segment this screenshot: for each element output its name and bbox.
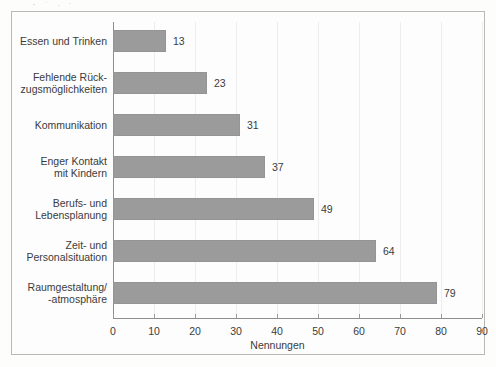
x-axis-tick — [195, 314, 196, 318]
gridline — [441, 22, 442, 318]
x-axis-tick — [318, 314, 319, 318]
bar — [113, 240, 376, 262]
x-axis-tick — [277, 314, 278, 318]
category-label: Enger Kontakt mit Kindern — [18, 155, 107, 180]
x-axis-tick-label: 90 — [462, 325, 496, 337]
x-axis-tick-label: 0 — [93, 325, 133, 337]
gridline — [359, 22, 360, 318]
x-axis-line — [113, 318, 482, 319]
x-axis-tick-label: 20 — [175, 325, 215, 337]
bar-value-label: 23 — [214, 77, 226, 89]
x-axis-tick-label: 50 — [298, 325, 338, 337]
bar-value-label: 31 — [247, 119, 259, 131]
x-axis-tick — [441, 314, 442, 318]
bar-value-label: 79 — [444, 287, 456, 299]
x-axis-tick-label: 30 — [216, 325, 256, 337]
x-axis-tick-label: 10 — [134, 325, 174, 337]
gridline — [482, 22, 483, 318]
bar-chart: 0102030405060708090NennungenEssen und Tr… — [0, 0, 496, 367]
bar — [113, 30, 166, 52]
x-axis-tick — [236, 314, 237, 318]
gridline — [400, 22, 401, 318]
bar — [113, 156, 265, 178]
bar — [113, 282, 437, 304]
category-label: Essen und Trinken — [18, 35, 107, 48]
bar — [113, 114, 240, 136]
gridline — [318, 22, 319, 318]
bar-value-label: 13 — [173, 35, 185, 47]
bar-value-label: 37 — [272, 161, 284, 173]
x-axis-tick-label: 70 — [380, 325, 420, 337]
bar-value-label: 64 — [383, 245, 395, 257]
x-axis-tick — [154, 314, 155, 318]
bar — [113, 72, 207, 94]
x-axis-tick — [482, 314, 483, 318]
category-label: Raumgestaltung/ -atmosphäre — [18, 281, 107, 306]
x-axis-tick-label: 80 — [421, 325, 461, 337]
x-axis-tick — [113, 314, 114, 318]
x-axis-tick-label: 40 — [257, 325, 297, 337]
x-axis-tick-label: 60 — [339, 325, 379, 337]
x-axis-title: Nennungen — [93, 339, 462, 351]
category-label: Berufs- und Lebensplanung — [18, 197, 107, 222]
category-label: Fehlende Rück- zugsmöglichkeiten — [18, 71, 107, 96]
category-label: Zeit- und Personalsituation — [18, 239, 107, 264]
x-axis-tick — [359, 314, 360, 318]
bar-value-label: 49 — [321, 203, 333, 215]
x-axis-tick — [400, 314, 401, 318]
category-label: Kommunikation — [18, 119, 107, 132]
bar — [113, 198, 314, 220]
